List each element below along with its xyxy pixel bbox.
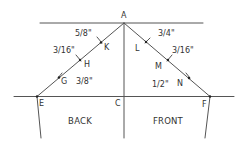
label-H: H	[84, 60, 90, 69]
dot-G	[58, 76, 60, 78]
region-front: FRONT	[153, 116, 184, 126]
dot-M	[167, 59, 169, 61]
label-G: G	[61, 77, 67, 86]
dot-N	[188, 77, 190, 79]
pattern-diagram: A K H G L M N E C F 5/8" 3/16" 3/8" 3/4"…	[0, 0, 247, 145]
label-N: N	[177, 79, 183, 88]
label-M: M	[155, 62, 162, 71]
measure-KH: 3/16"	[53, 46, 75, 55]
label-E: E	[39, 99, 44, 108]
label-A: A	[121, 11, 127, 20]
region-back: BACK	[68, 116, 92, 126]
measure-AK: 5/8"	[75, 29, 92, 38]
dot-E	[36, 95, 38, 97]
dot-F	[209, 95, 211, 97]
label-F: F	[202, 100, 207, 109]
measure-AL: 3/4"	[158, 29, 175, 38]
label-C: C	[115, 99, 121, 108]
dot-L	[145, 41, 147, 43]
label-K: K	[104, 43, 110, 52]
measure-HG: 3/8"	[76, 77, 93, 86]
label-L: L	[135, 44, 140, 53]
measure-LM: 3/16"	[172, 46, 194, 55]
dot-K	[100, 41, 102, 43]
measure-MN: 1/2"	[152, 80, 169, 89]
dot-H	[79, 59, 81, 61]
